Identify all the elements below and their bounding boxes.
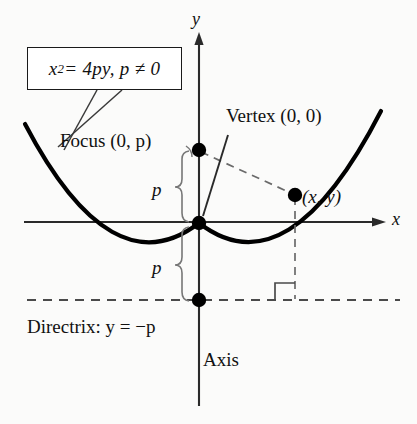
equation-text: x2 = 4py, p ≠ 0	[28, 48, 181, 89]
x-axis-label: x	[392, 210, 400, 228]
x-axis-arrowhead	[372, 217, 386, 226]
brace-upper-label: p	[152, 180, 162, 199]
focal-radius-dashed	[201, 152, 293, 194]
focus-label: Focus (0, p)	[60, 131, 151, 150]
vertex-point	[192, 216, 206, 230]
equation-callout-box: x2 = 4py, p ≠ 0	[27, 47, 182, 90]
vertex-leader-line	[203, 135, 228, 216]
y-axis-label: y	[192, 10, 200, 28]
general-point	[288, 188, 302, 202]
brace-upper	[175, 151, 189, 222]
equation-exponent: 2	[57, 61, 64, 77]
y-axis-arrowhead	[194, 32, 203, 45]
parabola-figure: x2 = 4py, p ≠ 0 Focus (0, p) Vertex (0, …	[0, 0, 417, 424]
axis-label: Axis	[203, 350, 239, 369]
vertex-label: Vertex (0, 0)	[226, 106, 322, 125]
focus-point	[192, 143, 206, 157]
point-coordinates-label: (x, y)	[302, 187, 341, 206]
equation-base: x	[49, 58, 58, 80]
brace-lower-label: p	[152, 258, 162, 277]
directrix-label: Directrix: y = −p	[27, 317, 156, 336]
directrix-foot-point	[192, 293, 206, 307]
equation-rest: = 4py, p ≠ 0	[64, 58, 160, 80]
right-angle-marker	[275, 283, 295, 299]
